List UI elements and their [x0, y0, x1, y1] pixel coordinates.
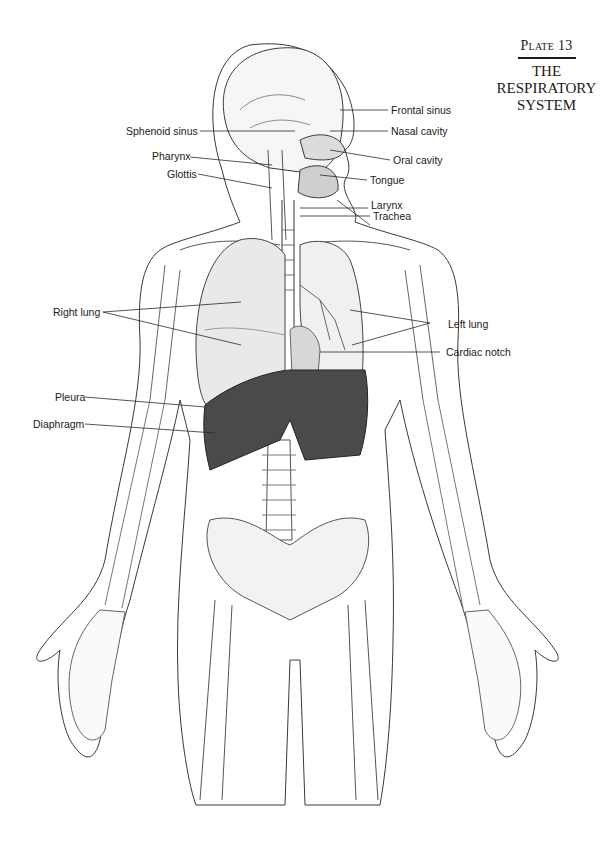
plate-heading: Plate 13 THE RESPIRATORY SYSTEM [484, 38, 609, 114]
label-pharynx: Pharynx [152, 150, 191, 162]
label-glottis: Glottis [167, 168, 197, 180]
anatomy-illustration [0, 0, 609, 844]
pelvis [207, 518, 369, 620]
forearm-right [105, 400, 165, 608]
label-tongue: Tongue [370, 174, 404, 186]
label-right-lung: Right lung [53, 306, 100, 318]
humerus-left [405, 265, 438, 400]
femur-right [200, 600, 232, 800]
label-pleura: Pleura [55, 391, 85, 403]
label-diaphragm: Diaphragm [33, 418, 84, 430]
hand-left [465, 610, 521, 740]
label-nasal-cavity: Nasal cavity [391, 125, 448, 137]
plate-divider [518, 57, 576, 59]
plate-title-line-3: SYSTEM [484, 97, 609, 114]
femur-left [348, 600, 378, 800]
plate-title-line-2: RESPIRATORY [484, 80, 609, 97]
label-oral-cavity: Oral cavity [393, 154, 443, 166]
tongue-region [298, 166, 338, 198]
respiratory-plate: Plate 13 THE RESPIRATORY SYSTEM Frontal … [0, 0, 609, 844]
hand-right [69, 610, 125, 740]
label-frontal-sinus: Frontal sinus [391, 104, 451, 116]
plate-number: Plate 13 [484, 38, 609, 54]
label-cardiac-notch: Cardiac notch [446, 346, 511, 358]
label-trachea: Trachea [373, 210, 411, 222]
humerus-right [150, 265, 180, 400]
plate-title-line-1: THE [484, 63, 609, 80]
label-sphenoid-sinus: Sphenoid sinus [126, 125, 198, 137]
label-left-lung: Left lung [448, 318, 488, 330]
